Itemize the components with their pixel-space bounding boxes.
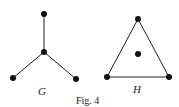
graph-g: G: [10, 11, 79, 97]
graph-h: H: [104, 16, 172, 95]
node-g-right: [73, 76, 79, 82]
node-h-center: [135, 51, 141, 57]
figure-caption: Fig. 4: [76, 95, 99, 106]
node-g-left: [10, 75, 16, 81]
node-h-left: [104, 74, 110, 80]
node-h-right: [166, 74, 172, 80]
node-h-top: [135, 16, 141, 22]
edge-g-center-left: [13, 52, 44, 78]
figure-canvas: G H Fig. 4: [0, 0, 179, 107]
graph-g-label: G: [38, 85, 46, 97]
edge-g-center-right: [44, 52, 76, 79]
triangle-h: [107, 19, 169, 77]
node-g-center: [41, 49, 47, 55]
node-g-top: [41, 11, 47, 17]
graph-h-label: H: [132, 83, 142, 95]
